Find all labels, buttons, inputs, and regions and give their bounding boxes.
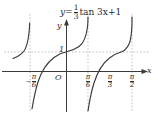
tangent-function-figure: y=13tan 3x+1 y x O 1 −π6 π6 π3 π2 bbox=[0, 0, 158, 121]
tick-label-neg-pi-over-6: −π6 bbox=[18, 74, 44, 90]
curve-left-branch bbox=[13, 23, 30, 59]
equation-label: y=13tan 3x+1 bbox=[60, 4, 121, 21]
tangent-curve bbox=[13, 17, 132, 111]
asymptote-lines bbox=[30, 14, 132, 112]
curve-center-branch bbox=[32, 17, 88, 109]
tick-label-pi-over-3: π3 bbox=[101, 74, 119, 90]
equation-equals: = bbox=[65, 7, 73, 17]
equation-constant: 1 bbox=[115, 7, 121, 17]
y-axis-label: y bbox=[57, 21, 62, 30]
tick-denominator: 6 bbox=[32, 81, 37, 89]
tick-fraction: π6 bbox=[86, 74, 91, 90]
tick-numerator: π bbox=[32, 74, 37, 81]
tick-label-pi-over-2: π2 bbox=[123, 74, 141, 90]
equation-coefficient-fraction: 13 bbox=[74, 4, 79, 21]
tick-numerator: π bbox=[108, 74, 113, 81]
tick-denominator: 6 bbox=[86, 81, 91, 89]
origin-label: O bbox=[55, 73, 62, 82]
equation-coef-numerator: 1 bbox=[74, 4, 79, 12]
y-axis bbox=[64, 19, 69, 112]
equation-rhs: tan 3x bbox=[79, 7, 107, 17]
y-intercept-label: 1 bbox=[59, 45, 64, 54]
tick-fraction: π2 bbox=[130, 74, 135, 90]
tick-fraction: π3 bbox=[108, 74, 113, 90]
tick-numerator: π bbox=[130, 74, 135, 81]
tick-fraction: π6 bbox=[32, 74, 37, 90]
tick-numerator: π bbox=[86, 74, 91, 81]
tick-label-pi-over-6: π6 bbox=[79, 74, 97, 90]
equation-coef-denominator: 3 bbox=[74, 12, 79, 21]
curve-right-branch bbox=[88, 17, 132, 111]
tick-denominator: 2 bbox=[130, 81, 135, 89]
tick-denominator: 3 bbox=[108, 81, 113, 89]
x-axis-label: x bbox=[147, 66, 152, 75]
